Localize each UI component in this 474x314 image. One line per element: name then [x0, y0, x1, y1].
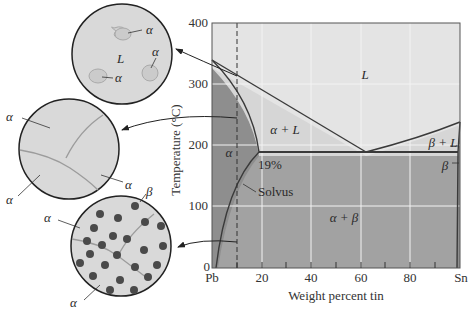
label-beta-liquid: β + L — [428, 135, 458, 150]
y-tick-400: 400 — [189, 15, 209, 30]
x-axis-title: Weight percent tin — [288, 288, 384, 303]
x-tick-80: 80 — [404, 270, 417, 285]
microstructure-liquid-alpha: α L α α — [72, 4, 172, 104]
x-tick-40: 40 — [305, 270, 318, 285]
label-19-percent: 19% — [258, 157, 282, 172]
x-tick-60: 60 — [355, 270, 368, 285]
label-beta: β — [441, 158, 449, 173]
label-liquid: L — [116, 51, 124, 66]
alpha-grain — [142, 65, 158, 81]
phase-plot: L α + L β + L α β α + β 19% Solvus 400 3… — [168, 15, 468, 303]
y-tick-200: 200 — [189, 137, 209, 152]
label-alpha: α — [226, 145, 234, 160]
alpha-grain — [115, 28, 131, 40]
label-alpha: α — [44, 210, 52, 225]
label-alpha: α — [70, 295, 78, 310]
label-beta: β — [145, 184, 153, 199]
label-alpha: α — [6, 109, 14, 124]
alpha-grain — [89, 69, 107, 83]
x-tick-20: 20 — [256, 270, 269, 285]
label-alpha: α — [115, 70, 123, 85]
label-alpha-liquid: α + L — [270, 122, 299, 137]
y-tick-300: 300 — [189, 76, 209, 91]
label-alpha-beta: α + β — [330, 210, 359, 225]
label-alpha: α — [125, 177, 133, 192]
microstructure-alpha-grains: α α α — [6, 99, 133, 207]
microstructure-alpha-beta-precipitates: β α α — [44, 184, 171, 310]
label-alpha: α — [6, 192, 14, 207]
label-alpha: α — [152, 44, 160, 59]
x-tick-sn: Sn — [454, 270, 468, 285]
label-solvus: Solvus — [258, 184, 293, 199]
label-liquid: L — [360, 67, 368, 82]
y-tick-100: 100 — [189, 198, 209, 213]
x-tick-pb: Pb — [205, 270, 219, 285]
phase-diagram-figure: L α + L β + L α β α + β 19% Solvus 400 3… — [0, 0, 474, 314]
label-alpha: α — [146, 22, 154, 37]
